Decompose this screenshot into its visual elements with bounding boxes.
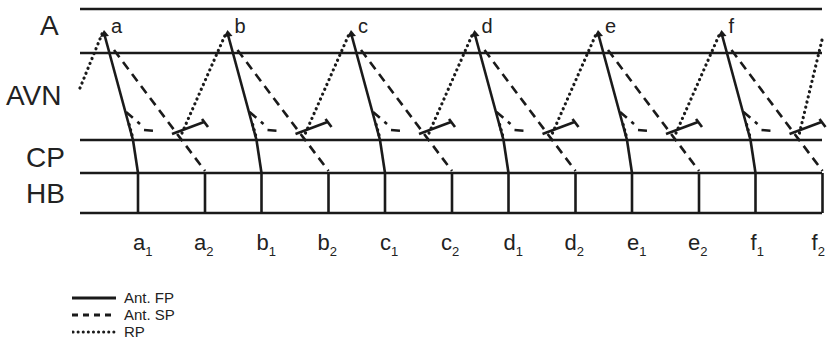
rp-path (429, 32, 474, 133)
legend-item-ant-sp: Ant. SP (72, 306, 175, 323)
his-event-label: f2 (812, 232, 825, 263)
level-label-avn: AVN (6, 82, 62, 110)
ant-sp-branch (515, 130, 527, 131)
atrial-event-label: f (729, 16, 735, 36)
ant-fp-path (504, 140, 509, 173)
ant-fp-path (133, 140, 138, 173)
legend-label: Ant. SP (124, 306, 175, 323)
rp-path (306, 32, 351, 133)
ant-sp-path (114, 50, 205, 171)
arrowhead-icon (594, 30, 603, 37)
level-label-a: A (40, 12, 59, 40)
his-event-label: f1 (751, 232, 764, 263)
ant-sp-path (238, 50, 329, 171)
arrowhead-icon (224, 30, 233, 37)
atrial-event-label: c (358, 16, 368, 36)
dashed-line-icon (72, 310, 116, 320)
legend-label: Ant. FP (124, 289, 174, 306)
ant-sp-path (732, 50, 823, 171)
ant-sp-branch (762, 130, 774, 131)
arrowhead-icon (718, 30, 727, 37)
atrial-event-label: b (235, 16, 246, 36)
block-bar (543, 122, 575, 134)
atrial-event-label: e (605, 16, 616, 36)
ant-fp-path (257, 140, 262, 173)
dotted-line-icon (72, 327, 116, 337)
block-bar (419, 122, 451, 134)
ant-sp-branch (391, 130, 403, 131)
his-event-label: a1 (133, 232, 152, 263)
his-event-label: b1 (257, 232, 276, 263)
his-event-label: d1 (504, 232, 523, 263)
block-bar (790, 122, 822, 134)
ant-sp-path (608, 50, 699, 171)
ant-sp-path (361, 50, 452, 171)
legend-item-ant-fp: Ant. FP (72, 289, 175, 306)
legend: Ant. FP Ant. SP RP (72, 289, 175, 340)
rp-path (676, 32, 721, 133)
rp-path (182, 32, 227, 133)
level-label-hb: HB (26, 180, 65, 208)
legend-label: RP (124, 323, 145, 340)
his-event-label: e2 (688, 232, 707, 263)
ant-sp-branch (638, 130, 650, 131)
ant-fp-path (751, 140, 756, 173)
rp-path (80, 34, 102, 88)
solid-line-icon (72, 293, 116, 303)
atrial-event-label: a (111, 16, 122, 36)
his-event-label: e1 (627, 232, 646, 263)
ant-sp-path (485, 50, 576, 171)
arrowhead-icon (347, 30, 356, 37)
his-event-label: c2 (441, 232, 459, 263)
ant-fp-path (380, 140, 385, 173)
block-bar (666, 122, 698, 134)
legend-item-rp: RP (72, 323, 175, 340)
atrial-event-label: d (482, 16, 493, 36)
ant-fp-path (627, 140, 632, 173)
rp-path (553, 32, 598, 133)
block-bar (172, 122, 204, 134)
his-event-label: d2 (565, 232, 584, 263)
his-event-label: c1 (380, 232, 398, 263)
his-event-label: b2 (318, 232, 337, 263)
ant-sp-branch (268, 130, 280, 131)
level-label-cp: CP (26, 144, 65, 172)
arrowhead-icon (471, 30, 480, 37)
ant-sp-branch (144, 130, 156, 131)
block-bar (296, 122, 328, 134)
his-event-label: a2 (194, 232, 213, 263)
